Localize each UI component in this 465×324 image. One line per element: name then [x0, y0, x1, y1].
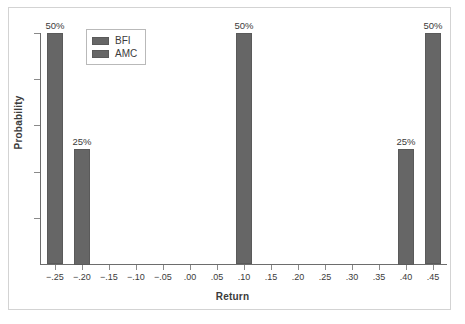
x-axis-tick — [271, 265, 272, 270]
x-axis-tick — [190, 265, 191, 270]
bar-value-label: 25% — [382, 136, 430, 147]
y-axis-title: Probability — [13, 68, 24, 178]
x-axis-tick-label: .45 — [413, 272, 453, 283]
x-axis-tick — [325, 265, 326, 270]
bar-value-label: 50% — [31, 20, 79, 31]
x-axis-tick — [244, 265, 245, 270]
y-axis-tick — [34, 218, 40, 219]
y-axis-tick — [34, 79, 40, 80]
y-axis-tick — [34, 125, 40, 126]
x-axis-tick — [217, 265, 218, 270]
legend-label-bfi: BFI — [115, 35, 131, 47]
y-axis-tick — [34, 33, 40, 34]
legend-item-amc: AMC — [92, 47, 137, 60]
x-axis-title: Return — [0, 291, 465, 302]
legend-swatch-amc — [92, 50, 109, 58]
legend-label-amc: AMC — [115, 48, 137, 60]
bar-value-label: 50% — [409, 20, 457, 31]
bar-amc-0.4 — [398, 149, 414, 265]
x-axis-tick — [82, 265, 83, 270]
y-axis-tick — [34, 172, 40, 173]
bar-amc--0.2 — [74, 149, 90, 265]
bar-value-label: 25% — [58, 136, 106, 147]
probability-return-bar-chart: −.25−.20−.15−.10−.05.00.05.10.15.20.25.3… — [0, 0, 465, 324]
bar-bfi-0.1 — [236, 33, 252, 264]
chart-legend: BFI AMC — [86, 29, 146, 65]
bar-value-label: 50% — [220, 20, 268, 31]
x-axis-tick — [298, 265, 299, 270]
x-axis-tick — [136, 265, 137, 270]
x-axis-tick — [109, 265, 110, 270]
x-axis-tick — [55, 265, 56, 270]
legend-swatch-bfi — [92, 37, 109, 45]
x-axis-tick — [379, 265, 380, 270]
bar-bfi-0.45 — [425, 33, 441, 264]
x-axis-tick — [433, 265, 434, 270]
x-axis-tick — [352, 265, 353, 270]
x-axis-tick — [163, 265, 164, 270]
legend-item-bfi: BFI — [92, 34, 137, 47]
bar-bfi--0.25 — [47, 33, 63, 264]
y-axis-line — [40, 33, 41, 265]
x-axis-tick — [406, 265, 407, 270]
